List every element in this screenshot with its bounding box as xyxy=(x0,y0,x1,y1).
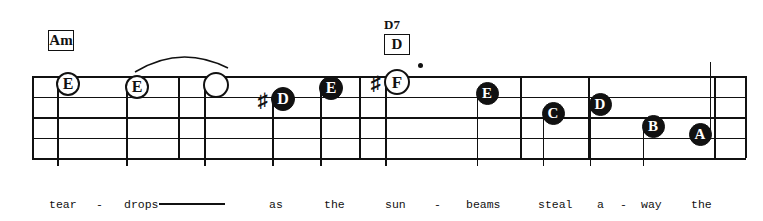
sharp-accidental-icon: ♯ xyxy=(258,90,268,110)
note-stem xyxy=(710,62,712,134)
note-stem xyxy=(57,84,59,166)
lyric-syllable: the xyxy=(691,199,712,211)
note-stem xyxy=(126,87,128,166)
lyric-syllable: drops xyxy=(124,199,159,211)
chord-box-am[interactable]: Am xyxy=(48,30,74,51)
note-stem xyxy=(204,85,206,166)
barline xyxy=(178,76,180,158)
staff-line xyxy=(32,138,746,140)
lyric-syllable: way xyxy=(641,199,662,211)
notehead-f-5[interactable]: F xyxy=(384,69,410,95)
barline xyxy=(359,76,361,158)
notehead-e-4[interactable]: E xyxy=(319,76,343,100)
note-stem xyxy=(272,99,274,166)
notehead-e-1[interactable]: E xyxy=(125,75,149,99)
note-stem xyxy=(590,104,592,166)
notehead-a-10[interactable]: A xyxy=(689,123,712,146)
notehead-b-9[interactable]: B xyxy=(642,115,665,138)
lyric-syllable: sun xyxy=(385,199,406,211)
notehead-e-6[interactable]: E xyxy=(476,82,499,105)
note-stem xyxy=(385,82,387,166)
staff-line xyxy=(32,158,746,160)
note-stem xyxy=(477,93,479,166)
sharp-accidental-icon: ♯ xyxy=(371,73,381,93)
lyric-syllable: beams xyxy=(466,199,501,211)
chord-name-label: D7 xyxy=(384,18,400,31)
barline xyxy=(714,76,716,158)
music-notation-sheet: AmD7DEE♯DE♯FECDBAtear-dropsasthesun-beam… xyxy=(0,0,763,221)
lyric-syllable: tear xyxy=(49,199,77,211)
notehead-d-8[interactable]: D xyxy=(589,93,612,116)
barline xyxy=(745,76,747,158)
notehead-c-7[interactable]: C xyxy=(542,102,565,125)
notehead-blank[interactable] xyxy=(203,72,229,98)
staff-line xyxy=(32,117,746,119)
lyric-syllable: - xyxy=(620,199,627,211)
notehead-d-3[interactable]: D xyxy=(271,87,295,111)
lyric-syllable: a xyxy=(597,199,604,211)
lyric-extender-line xyxy=(159,203,225,205)
lyric-syllable: - xyxy=(96,199,103,211)
barline xyxy=(32,76,34,158)
barline xyxy=(520,76,522,158)
lyric-syllable: as xyxy=(269,199,283,211)
lyric-syllable: steal xyxy=(538,199,573,211)
staff xyxy=(0,0,763,221)
notehead-e-0[interactable]: E xyxy=(56,72,80,96)
chord-box-d7[interactable]: D xyxy=(384,34,410,55)
note-stem xyxy=(320,88,322,166)
lyric-syllable: - xyxy=(434,199,441,211)
augmentation-dot xyxy=(418,63,423,68)
lyric-syllable: the xyxy=(324,199,345,211)
